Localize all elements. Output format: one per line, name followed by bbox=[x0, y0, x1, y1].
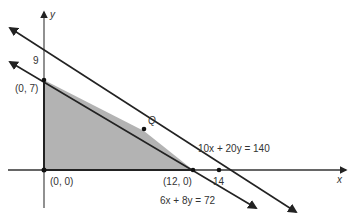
tick-14-label: 14 bbox=[213, 176, 225, 187]
point-12-0 bbox=[191, 168, 196, 173]
equation-6x-8y-label: 6x + 8y = 72 bbox=[160, 195, 215, 206]
point-0-7 bbox=[42, 78, 47, 83]
point-q bbox=[142, 127, 147, 132]
point-12-0-label: (12, 0) bbox=[163, 176, 192, 187]
origin-label: (0, 0) bbox=[50, 176, 73, 187]
point-14-0 bbox=[217, 168, 222, 173]
y-intercept-9-label: 9 bbox=[33, 55, 39, 66]
point-0-7-label: (0, 7) bbox=[15, 83, 38, 94]
x-axis-label: x bbox=[336, 174, 343, 185]
chart-canvas: y x 9 (0, 7) (0, 0) (12, 0) 14 Q 10x + 2… bbox=[0, 0, 355, 222]
y-axis-label: y bbox=[49, 9, 56, 20]
point-origin bbox=[42, 168, 47, 173]
point-q-label: Q bbox=[148, 115, 156, 126]
equation-10x-20y-label: 10x + 20y = 140 bbox=[198, 143, 270, 154]
